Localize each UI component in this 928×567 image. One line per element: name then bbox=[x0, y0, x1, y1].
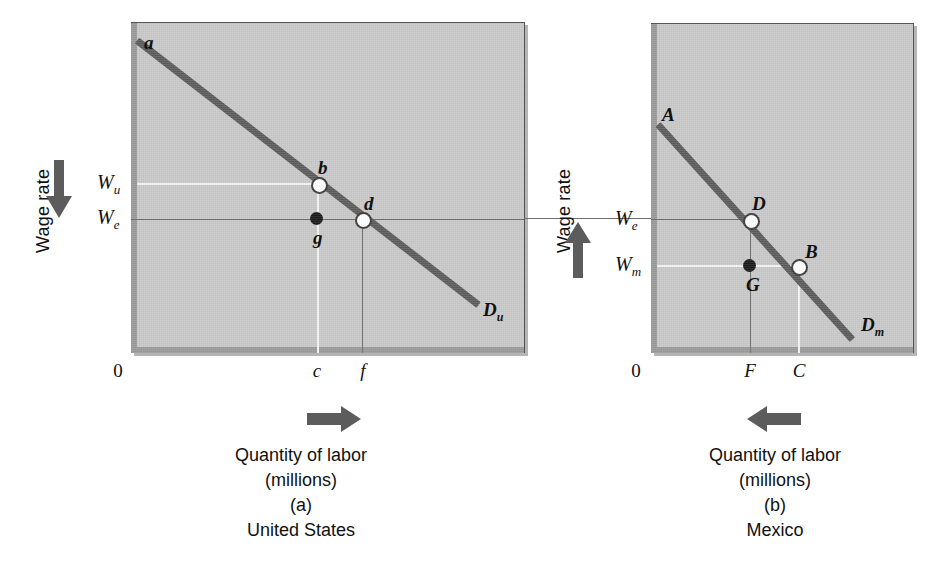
point-label-D: D bbox=[752, 194, 766, 213]
point-label-d: d bbox=[364, 194, 374, 213]
x-tick-label-c: c bbox=[313, 361, 321, 380]
demand-curve-du bbox=[135, 38, 481, 308]
guide-line-wu-horizontal bbox=[137, 183, 318, 185]
y-tick-label-we-us: We bbox=[97, 207, 119, 231]
y-tick-we-subscript: e bbox=[114, 217, 120, 232]
guide-line-f-vertical bbox=[362, 219, 363, 353]
x-tick-label-origin-us: 0 bbox=[113, 361, 123, 380]
y-tick-we-mexico-subscript: e bbox=[632, 218, 638, 233]
x-axis-spine-mexico bbox=[651, 347, 913, 353]
arrow-quantity-right-us bbox=[307, 406, 361, 432]
figure-root: a b d g Du Wu We 0 c f Wage rate Quantit… bbox=[0, 0, 928, 567]
caption-us-line1: Quantity of labor bbox=[235, 443, 367, 468]
y-axis-spine-mexico bbox=[651, 24, 657, 353]
point-marker-g bbox=[310, 212, 323, 225]
arrow-wage-down-us bbox=[46, 160, 72, 220]
caption-united-states: Quantity of labor (millions) (a) United … bbox=[235, 443, 367, 543]
plot-area-us bbox=[131, 23, 524, 353]
curve-label-du-base: D bbox=[483, 299, 497, 320]
point-marker-G bbox=[743, 259, 756, 272]
point-label-a: a bbox=[144, 33, 154, 52]
plot-area-mexico bbox=[651, 24, 913, 353]
y-tick-wu-subscript: u bbox=[114, 182, 121, 197]
caption-mexico-panel-letter: (b) bbox=[709, 493, 841, 518]
guide-line-wm-horizontal bbox=[657, 265, 799, 267]
caption-us-line2: (millions) bbox=[235, 468, 367, 493]
caption-us-panel-letter: (a) bbox=[235, 493, 367, 518]
point-marker-b bbox=[311, 177, 328, 194]
y-tick-we-mexico-base: W bbox=[615, 207, 632, 229]
y-tick-label-wu: Wu bbox=[97, 172, 120, 196]
arrow-wage-up-mexico bbox=[565, 222, 591, 278]
curve-label-du: Du bbox=[483, 300, 503, 323]
y-tick-we-base: W bbox=[97, 206, 114, 228]
y-tick-wm-base: W bbox=[615, 253, 632, 275]
x-tick-label-C: C bbox=[793, 361, 806, 380]
point-marker-D bbox=[743, 213, 760, 230]
y-tick-wm-subscript: m bbox=[632, 264, 641, 279]
caption-mexico-line2: (millions) bbox=[709, 468, 841, 493]
chart-panel-mexico bbox=[651, 23, 914, 353]
point-marker-d bbox=[355, 212, 372, 229]
demand-curve-dm bbox=[655, 122, 855, 342]
curve-label-du-subscript: u bbox=[497, 310, 504, 324]
point-label-b: b bbox=[318, 158, 328, 177]
point-label-A: A bbox=[662, 105, 675, 124]
point-label-B: B bbox=[805, 242, 818, 261]
point-label-G: G bbox=[746, 275, 760, 294]
caption-mexico-line1: Quantity of labor bbox=[709, 443, 841, 468]
curve-label-dm: Dm bbox=[861, 315, 884, 338]
chart-panel-united-states bbox=[131, 22, 525, 353]
y-axis-spine-us bbox=[131, 23, 137, 353]
x-tick-label-origin-mexico: 0 bbox=[631, 361, 641, 380]
y-tick-label-we-mexico: We bbox=[615, 208, 637, 232]
caption-mexico: Quantity of labor (millions) (b) Mexico bbox=[709, 443, 841, 543]
guide-line-we-horizontal-us bbox=[131, 219, 524, 220]
x-axis-spine-us bbox=[131, 347, 524, 353]
caption-mexico-country: Mexico bbox=[709, 518, 841, 543]
y-tick-wu-base: W bbox=[97, 171, 114, 193]
caption-us-country: United States bbox=[235, 518, 367, 543]
arrow-quantity-left-mexico bbox=[747, 406, 801, 432]
x-tick-label-f: f bbox=[360, 361, 365, 380]
point-label-g: g bbox=[313, 228, 323, 247]
x-tick-label-F: F bbox=[744, 361, 756, 380]
guide-line-c-vertical bbox=[317, 183, 319, 353]
y-tick-label-wm: Wm bbox=[615, 254, 641, 278]
curve-label-dm-base: D bbox=[861, 314, 875, 335]
guide-line-we-horizontal-mexico bbox=[651, 219, 750, 220]
curve-label-dm-subscript: m bbox=[875, 325, 884, 339]
